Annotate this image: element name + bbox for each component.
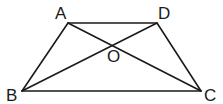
label-C: C (204, 86, 216, 104)
segment-DC (157, 23, 201, 91)
label-A: A (55, 4, 67, 23)
segment-AB (22, 23, 68, 91)
trapezoid-diagram: A D B C O (0, 0, 223, 104)
label-D: D (158, 4, 170, 23)
label-B: B (6, 86, 17, 104)
label-O: O (107, 47, 120, 66)
